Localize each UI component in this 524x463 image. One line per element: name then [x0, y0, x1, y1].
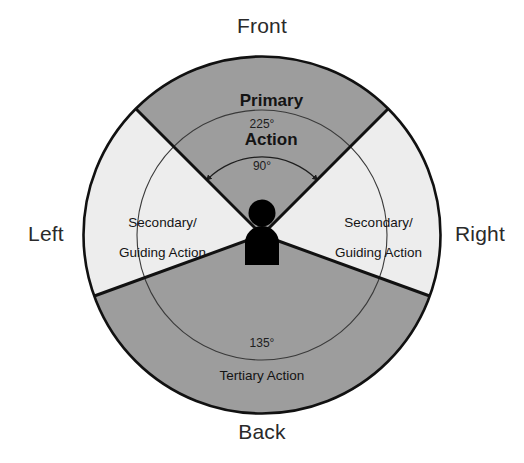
angle-label-90: 90°: [232, 160, 292, 173]
sector-label-primary-line2: Action: [245, 130, 298, 149]
sector-label-secondary-right-line2: Guiding Action: [335, 245, 422, 260]
sector-label-secondary-left: Secondary/ Guiding Action: [96, 200, 214, 276]
compass-label-back: Back: [212, 420, 312, 444]
compass-label-left: Left: [8, 222, 84, 246]
compass-label-front: Front: [212, 14, 312, 38]
sector-label-secondary-left-line2: Guiding Action: [119, 245, 206, 260]
sector-label-secondary-left-line1: Secondary/: [128, 215, 196, 230]
sector-label-secondary-right: Secondary/ Guiding Action: [312, 200, 430, 276]
action-zone-diagram: Front Back Left Right Primary Action Sec…: [0, 0, 524, 463]
compass-label-right: Right: [440, 222, 520, 246]
person-head-icon: [249, 200, 276, 227]
angle-label-225: 225°: [232, 118, 292, 131]
sector-label-tertiary-action: Tertiary Action: [192, 368, 332, 383]
angle-label-135: 135°: [232, 337, 292, 350]
person-body-icon: [245, 226, 279, 265]
sector-label-primary-line1: Primary: [240, 91, 303, 110]
person-figure-icon: [245, 200, 279, 266]
sector-label-secondary-right-line1: Secondary/: [344, 215, 412, 230]
